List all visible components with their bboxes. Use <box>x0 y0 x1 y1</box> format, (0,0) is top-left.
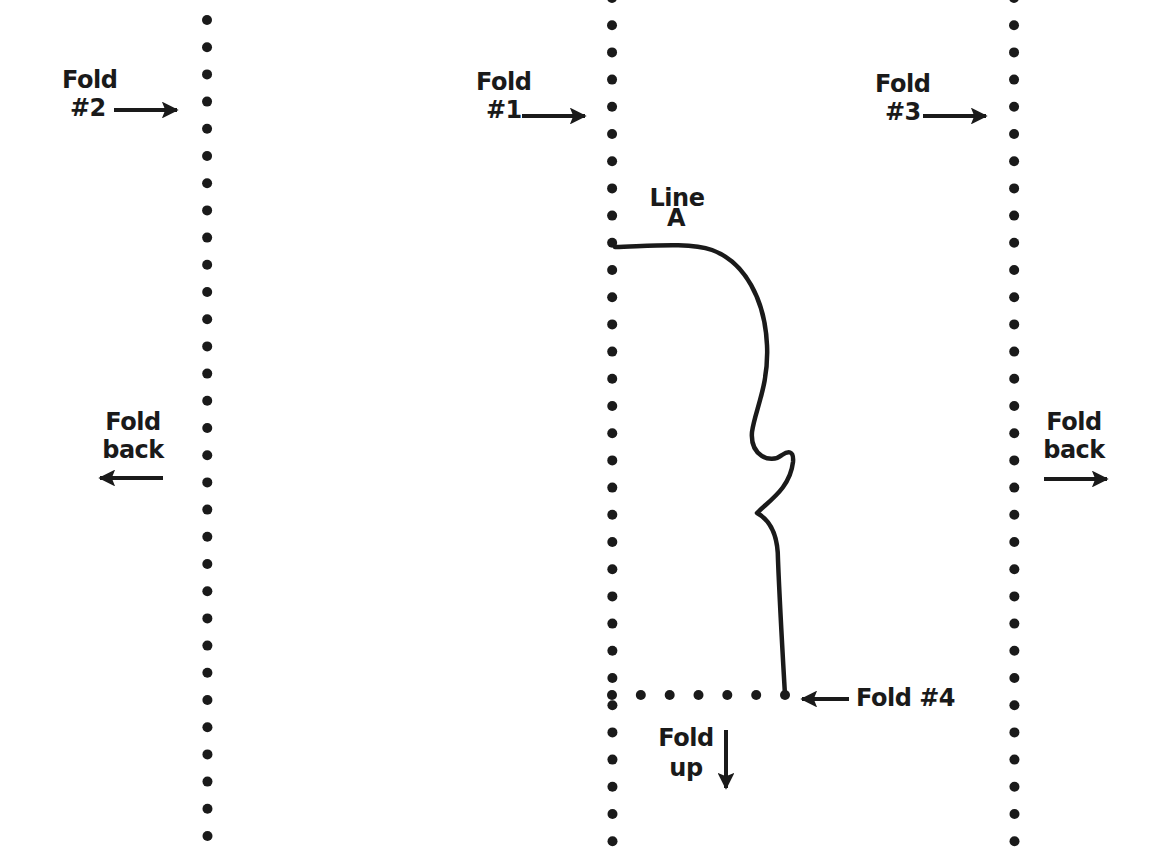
fold-dot <box>1009 809 1019 819</box>
fold-dot <box>1009 673 1019 683</box>
fold-dot <box>202 341 212 351</box>
fold-dot <box>607 428 617 438</box>
fold-dot <box>607 401 617 411</box>
label-fold-2: Fold #2 <box>50 66 130 122</box>
fold-dot <box>202 97 212 107</box>
fold-dot <box>202 287 212 297</box>
label-fold-back-left: Fold back <box>96 408 170 464</box>
fold-dot <box>607 129 617 139</box>
fold-dot <box>607 755 617 765</box>
fold-dot <box>607 156 617 166</box>
fold-dot <box>607 211 617 221</box>
fold-dot <box>1009 836 1019 846</box>
fold-dot <box>1009 183 1019 193</box>
fold-dot <box>607 347 617 357</box>
fold-dot <box>607 782 617 792</box>
fold-dot <box>1009 700 1019 710</box>
fold-dot <box>202 423 212 433</box>
fold-dot <box>1009 591 1019 601</box>
fold-dot <box>1009 428 1019 438</box>
fold-dot <box>202 178 212 188</box>
fold-dot <box>607 591 617 601</box>
fold-dot <box>1009 319 1019 329</box>
fold-dot <box>1009 619 1019 629</box>
fold-dot <box>202 369 212 379</box>
fold-dot <box>607 47 617 57</box>
label-fold-up: Fold up <box>650 724 722 782</box>
fold-dot <box>202 233 212 243</box>
fold-dot <box>607 537 617 547</box>
fold-dot <box>1009 755 1019 765</box>
fold-dot <box>1009 102 1019 112</box>
fold-dot <box>607 319 617 329</box>
fold-dot <box>202 749 212 759</box>
fold-line-4 <box>607 690 790 700</box>
label-line-a: Line A <box>640 184 714 232</box>
line-a-curve <box>615 245 793 695</box>
fold-dot <box>751 690 761 700</box>
fold-dot <box>202 695 212 705</box>
fold-dot <box>202 450 212 460</box>
fold-dot <box>607 20 617 30</box>
fold-line-3 <box>1009 0 1019 846</box>
fold-dot <box>607 75 617 85</box>
fold-dot <box>607 265 617 275</box>
fold-dot <box>202 668 212 678</box>
fold-dot <box>607 564 617 574</box>
fold-dot <box>1009 347 1019 357</box>
fold-dot <box>607 619 617 629</box>
fold-dot <box>1009 537 1019 547</box>
fold-dot <box>1009 20 1019 30</box>
fold-dot <box>202 641 212 651</box>
label-fold-4: Fold #4 <box>856 684 966 712</box>
fold-dot <box>1009 374 1019 384</box>
fold-dot <box>665 690 675 700</box>
fold-dot <box>1009 401 1019 411</box>
fold-dot <box>722 690 732 700</box>
fold-dot <box>202 722 212 732</box>
label-fold-back-right: Fold back <box>1037 408 1111 464</box>
fold-dot <box>694 690 704 700</box>
fold-dot <box>607 292 617 302</box>
fold-dot <box>1009 564 1019 574</box>
fold-dot <box>202 151 212 161</box>
fold-dot <box>1009 238 1019 248</box>
fold-dot <box>607 102 617 112</box>
fold-dot <box>1009 47 1019 57</box>
fold-dot <box>1009 782 1019 792</box>
fold-dot <box>607 727 617 737</box>
fold-line-2 <box>202 15 212 841</box>
fold-dot <box>1009 483 1019 493</box>
fold-dot <box>202 532 212 542</box>
fold-dot <box>1009 646 1019 656</box>
fold-dot <box>202 505 212 515</box>
fold-dot <box>202 260 212 270</box>
fold-dot <box>202 777 212 787</box>
fold-dot <box>607 183 617 193</box>
fold-dot <box>202 42 212 52</box>
fold-dot <box>1009 510 1019 520</box>
fold-dot <box>1009 0 1019 3</box>
fold-dot <box>1009 211 1019 221</box>
fold-dot <box>202 124 212 134</box>
label-fold-1: Fold #1 <box>464 68 544 124</box>
fold-dot <box>202 15 212 25</box>
fold-dot <box>1009 455 1019 465</box>
fold-dot <box>202 396 212 406</box>
fold-dot <box>607 673 617 683</box>
fold-line-1 <box>607 0 617 846</box>
fold-dot <box>607 455 617 465</box>
fold-dot <box>607 836 617 846</box>
label-fold-3: Fold #3 <box>864 70 944 126</box>
fold-dot <box>202 804 212 814</box>
fold-dot <box>607 700 617 710</box>
fold-dot <box>202 586 212 596</box>
fold-dot <box>607 809 617 819</box>
fold-dot <box>1009 292 1019 302</box>
fold-dot <box>607 483 617 493</box>
fold-dot <box>607 646 617 656</box>
fold-dot <box>636 690 646 700</box>
fold-dot <box>1009 156 1019 166</box>
fold-dot <box>202 314 212 324</box>
fold-diagram <box>0 0 1150 847</box>
